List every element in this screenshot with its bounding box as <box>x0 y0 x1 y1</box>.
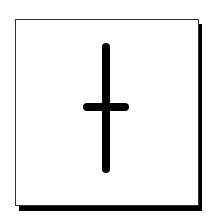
dagger-cross-icon <box>0 0 212 224</box>
